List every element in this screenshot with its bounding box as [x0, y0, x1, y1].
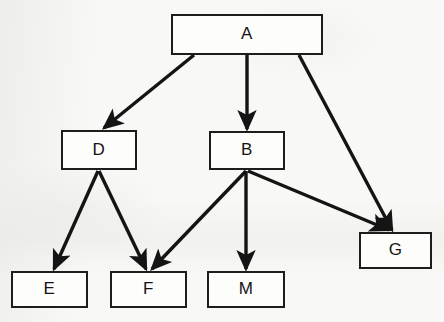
node-label-a: A [241, 25, 253, 42]
node-e[interactable]: E [11, 271, 88, 308]
node-label-e: E [44, 280, 56, 297]
node-label-m: M [239, 280, 254, 297]
edge-b-to-f [152, 171, 246, 269]
node-a[interactable]: A [171, 14, 323, 55]
edge-a-to-d [104, 55, 194, 128]
node-label-d: D [93, 141, 106, 158]
node-f[interactable]: F [110, 271, 187, 308]
node-label-g: G [389, 241, 403, 258]
node-m[interactable]: M [207, 271, 285, 308]
node-b[interactable]: B [209, 131, 285, 170]
node-label-f: F [143, 280, 154, 297]
node-d[interactable]: D [61, 130, 137, 170]
node-g[interactable]: G [359, 232, 432, 269]
diagram-canvas: ADBGEFM [0, 0, 444, 322]
node-label-b: B [241, 141, 253, 158]
edge-a-to-g [299, 55, 392, 230]
edge-d-to-f [99, 171, 146, 269]
edge-d-to-e [54, 171, 98, 269]
edge-b-to-g [248, 171, 389, 230]
